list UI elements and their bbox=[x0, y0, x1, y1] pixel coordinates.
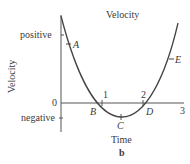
x-tick-label-1: 1 bbox=[103, 89, 108, 100]
x-tick-label-3: 3 bbox=[180, 105, 185, 116]
point-e-label: E bbox=[174, 54, 181, 65]
chart-title: Velocity bbox=[106, 9, 139, 20]
figure-caption: b bbox=[119, 147, 125, 158]
x-axis-label: Time bbox=[111, 134, 132, 145]
velocity-curve bbox=[61, 16, 178, 117]
point-a-label: A bbox=[72, 39, 80, 50]
point-c-label: C bbox=[117, 120, 124, 131]
y-label-negative: negative bbox=[21, 112, 55, 123]
x-tick-label-2: 2 bbox=[141, 89, 146, 100]
point-b-label: B bbox=[90, 106, 96, 117]
velocity-chart: Velocity Velocity positive 0 negative 1 … bbox=[0, 0, 190, 164]
y-axis-label: Velocity bbox=[6, 60, 17, 93]
y-label-positive: positive bbox=[20, 29, 52, 40]
y-label-zero: 0 bbox=[52, 97, 57, 108]
point-d-label: D bbox=[145, 106, 154, 117]
